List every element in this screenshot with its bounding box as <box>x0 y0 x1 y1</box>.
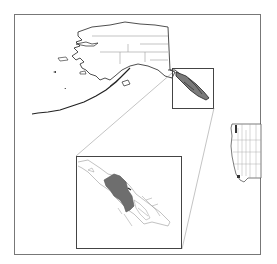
western-us-map <box>231 124 261 182</box>
southeast-alaska-inset <box>77 157 182 249</box>
locator-map <box>0 0 277 264</box>
